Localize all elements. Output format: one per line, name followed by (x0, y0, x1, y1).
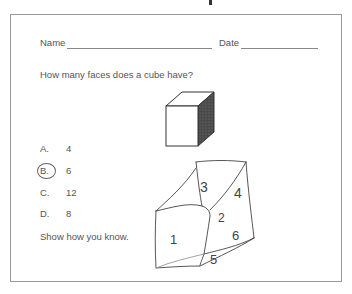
option-c-letter: C. (40, 187, 50, 198)
page-top-mark (209, 0, 212, 5)
option-a-letter: A. (40, 143, 49, 154)
sketch-label-5: 5 (210, 252, 217, 267)
date-label: Date (219, 37, 239, 48)
option-c-value: 12 (66, 187, 77, 198)
sketch-label-3: 3 (200, 179, 208, 195)
sketch-label-4: 4 (234, 185, 242, 201)
option-d-value: 8 (66, 208, 71, 219)
sketch-label-2: 2 (218, 211, 225, 225)
sketch-label-6: 6 (232, 228, 239, 243)
option-d-letter: D. (40, 208, 50, 219)
name-blank-line[interactable] (67, 48, 212, 49)
date-blank-line[interactable] (241, 48, 318, 49)
option-b-letter[interactable]: B. (40, 165, 49, 176)
name-label: Name (40, 37, 65, 48)
cube-illustration (160, 88, 220, 148)
show-work-prompt: Show how you know. (40, 231, 129, 242)
option-a-value: 4 (66, 143, 71, 154)
option-b-value: 6 (66, 165, 71, 176)
sketch-label-1: 1 (170, 232, 177, 247)
hand-drawn-cube-sketch: 1 2 3 4 5 6 (140, 150, 280, 280)
question-text: How many faces does a cube have? (40, 69, 193, 80)
